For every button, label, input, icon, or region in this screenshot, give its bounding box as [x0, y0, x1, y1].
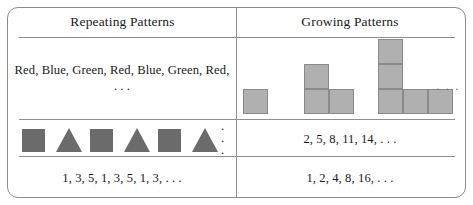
patterns-comparison-figure: Repeating Patterns Growing Patterns Red,… [0, 0, 473, 205]
header-separator-rule [19, 37, 455, 38]
column-divider-rule [236, 8, 237, 197]
column-header-growing-patterns: Growing Patterns [236, 11, 464, 33]
growing-square-t1-1 [243, 89, 268, 114]
triangle-shape-2 [124, 128, 150, 152]
square-shape [22, 129, 45, 152]
column-header-repeating-patterns: Repeating Patterns [9, 11, 236, 33]
growing-square-t2-3 [329, 89, 354, 114]
growing-squares-diagram: . . . [238, 42, 466, 118]
growing-square-t3-4 [403, 89, 428, 114]
square-shape-2 [90, 129, 113, 152]
repeating-shape-sequence: . . . [22, 122, 234, 154]
growing-diagram-ellipsis: . . . [436, 80, 460, 92]
growing-square-t2-1 [304, 64, 329, 89]
triangle-shape [56, 128, 82, 152]
growing-arithmetic-sequence-text: 2, 5, 8, 11, 14, . . . [240, 131, 460, 147]
square-shape-3 [158, 129, 181, 152]
row2-row3-separator-rule [19, 156, 455, 157]
growing-geometric-sequence-text: 1, 2, 4, 8, 16, . . . [240, 170, 460, 186]
growing-square-t3-1 [378, 39, 403, 64]
repeating-color-sequence-text: Red, Blue, Green, Red, Blue, Green, Red,… [12, 62, 232, 94]
growing-square-t3-3 [378, 89, 403, 114]
repeating-shapes-ellipsis: . . . [221, 120, 234, 156]
triangle-shape-3 [192, 128, 218, 152]
row1-row2-separator-rule [19, 119, 455, 120]
growing-square-t3-2 [378, 64, 403, 89]
growing-square-t2-2 [304, 89, 329, 114]
repeating-number-sequence-text: 1, 3, 5, 1, 3, 5, 1, 3, . . . [12, 170, 232, 186]
